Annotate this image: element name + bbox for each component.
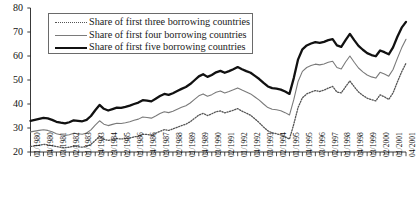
x-tick-04-1980: 04/1980 <box>47 132 55 157</box>
x-tick-01-1986: 01/1986 <box>137 132 145 157</box>
x-tick-03-1999: 03/1999 <box>370 132 378 157</box>
x-tick-02-1997: 02/1997 <box>332 132 340 157</box>
legend-item-five: Share of first five borrowing countries <box>53 41 252 53</box>
y-tick-50: 50 <box>3 75 23 85</box>
x-tick-01-2001: 01/2001 <box>396 132 404 157</box>
y-tick-20: 20 <box>3 147 23 157</box>
x-tick-03-1990: 03/1990 <box>215 132 223 157</box>
legend-item-three: Share of first three borrowing countries <box>53 16 252 28</box>
x-tick-03-1981: 03/1981 <box>60 132 68 157</box>
legend-swatch-dotted-icon <box>53 16 89 28</box>
x-tick-04-1989: 04/1989 <box>202 132 210 157</box>
y-tick-60: 60 <box>3 51 23 61</box>
x-tick-01-1995: 01/1995 <box>293 132 301 157</box>
x-tick-04-1992: 04/1992 <box>254 132 262 157</box>
x-tick-04-1998: 04/1998 <box>357 132 365 157</box>
x-tick-01-1980: 01/1980 <box>34 132 42 157</box>
x-tick-04-2001: 04/2001 <box>409 132 417 157</box>
y-tick-80: 80 <box>3 3 23 13</box>
x-tick-04-1986: 04/1986 <box>150 132 158 157</box>
x-tick-03-1987: 03/1987 <box>163 132 171 157</box>
x-tick-01-1992: 01/1992 <box>241 132 249 157</box>
legend-label-four: Share of first four borrowing countries <box>89 29 247 41</box>
legend-swatch-thin-icon <box>53 29 89 41</box>
x-tick-01-1989: 01/1989 <box>189 132 197 157</box>
x-tick-02-1985: 02/1985 <box>124 132 132 157</box>
y-tick-40: 40 <box>3 99 23 109</box>
x-tick-03-1996: 03/1996 <box>319 132 327 157</box>
x-tick-04-1995: 04/1995 <box>306 132 314 157</box>
x-tick-01-1983: 01/1983 <box>85 132 93 157</box>
legend-label-three: Share of first three borrowing countries <box>89 16 250 28</box>
legend-item-four: Share of first four borrowing countries <box>53 28 252 40</box>
x-tick-01-1998: 01/1998 <box>344 132 352 157</box>
y-tick-30: 30 <box>3 123 23 133</box>
chart-legend: Share of first three borrowing countries… <box>48 13 253 54</box>
x-tick-02-1988: 02/1988 <box>176 132 184 157</box>
x-tick-02-1994: 02/1994 <box>280 132 288 157</box>
legend-label-five: Share of first five borrowing countries <box>89 41 245 53</box>
y-tick-70: 70 <box>3 27 23 37</box>
x-tick-03-1993: 03/1993 <box>267 132 275 157</box>
x-tick-02-2000: 02/2000 <box>383 132 391 157</box>
legend-swatch-thick-icon <box>53 41 89 53</box>
x-tick-02-1991: 02/1991 <box>228 132 236 157</box>
x-tick-03-1984: 03/1984 <box>111 132 119 157</box>
x-tick-02-1982: 02/1982 <box>73 132 81 157</box>
x-tick-04-1983: 04/1983 <box>98 132 106 157</box>
